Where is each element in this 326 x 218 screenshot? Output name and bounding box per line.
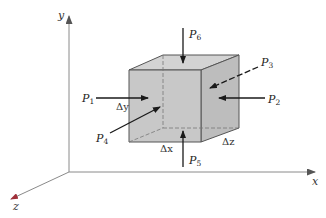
force-p5-label: P5 [188, 154, 201, 168]
y-axis-label: y [57, 9, 65, 22]
dimension-dx-label: Δx [160, 143, 173, 154]
dimension-dy-label: Δy [116, 101, 129, 112]
x-axis-label: x [312, 175, 319, 188]
force-p6-label: P6 [188, 28, 201, 42]
force-p3-label: P3 [260, 56, 273, 70]
z-axis-label: z [12, 200, 19, 213]
cube-force-diagram: y x z P1 P2 P3 P4 P5 P6 [0, 0, 326, 218]
force-p4-label: P4 [95, 132, 108, 146]
dimension-dz-label: Δz [222, 136, 235, 147]
cube-front-face [129, 70, 201, 142]
force-p1-label: P1 [81, 92, 94, 106]
z-axis [11, 172, 69, 199]
force-p2-label: P2 [267, 93, 280, 107]
